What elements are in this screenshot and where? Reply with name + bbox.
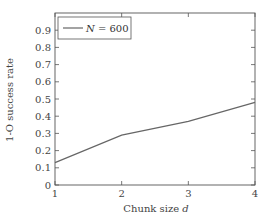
y-tick-label: 0.9 [35, 25, 51, 36]
y-tick-label: 0.2 [35, 145, 51, 156]
y-tick-label: 0 [45, 180, 51, 191]
x-tick-label: 4 [252, 188, 258, 199]
x-axis: 1234 [52, 13, 258, 199]
legend: N = 600 [58, 17, 131, 39]
y-tick-label: 0.3 [35, 128, 51, 139]
legend-label: N = 600 [85, 23, 129, 34]
y-tick-label: 0.7 [35, 59, 51, 70]
y-tick-label: 0.8 [35, 42, 51, 53]
x-tick-label: 2 [118, 188, 124, 199]
x-tick-label: 3 [185, 188, 191, 199]
line-chart: 00.10.20.30.40.50.60.70.80.9 1234 N = 60… [0, 0, 272, 221]
series-lines [55, 102, 255, 162]
x-tick-label: 1 [52, 188, 58, 199]
x-axis-label: Chunk size d [123, 203, 188, 214]
y-axis: 00.10.20.30.40.50.60.70.80.9 [35, 25, 255, 191]
y-tick-label: 0.4 [35, 111, 51, 122]
y-tick-label: 0.5 [35, 94, 51, 105]
y-tick-label: 0.6 [35, 76, 51, 87]
series-line [55, 102, 255, 162]
y-axis-label: 1-O success rate [4, 58, 15, 142]
y-tick-label: 0.1 [35, 162, 51, 173]
